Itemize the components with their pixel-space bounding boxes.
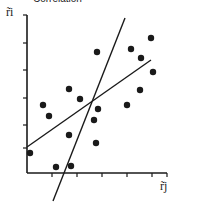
data-point: [66, 132, 72, 138]
data-point: [77, 96, 83, 102]
data-point: [40, 102, 46, 108]
data-point: [53, 164, 59, 170]
data-point: [93, 140, 99, 146]
data-point: [46, 113, 52, 119]
data-point: [124, 102, 130, 108]
data-point: [148, 35, 154, 41]
data-point: [95, 106, 101, 112]
data-point: [138, 55, 144, 61]
data-point: [91, 117, 97, 123]
data-point: [27, 150, 33, 156]
data-point: [128, 46, 134, 52]
data-point: [150, 69, 156, 75]
data-point: [68, 163, 74, 169]
scatter-plot: [0, 0, 198, 203]
data-point: [66, 86, 72, 92]
data-point: [94, 49, 100, 55]
data-point: [137, 87, 143, 93]
correlation-figure: Correlation r̃i r̃j: [0, 0, 198, 203]
